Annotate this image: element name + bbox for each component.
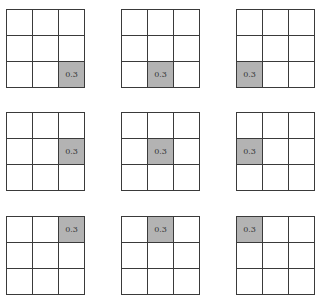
grid-cell: [263, 139, 289, 165]
grid-cell: [122, 269, 148, 295]
grid-cell: [59, 113, 85, 139]
grid-cell: [289, 269, 315, 295]
kernel-grid: 0.3: [121, 112, 200, 191]
grid-cell: [33, 113, 59, 139]
grid-cell: [59, 269, 85, 295]
grid-cell: [237, 243, 263, 269]
grid-cell: [148, 243, 174, 269]
kernel-grid: 0.3: [121, 216, 200, 295]
grid-cell: [174, 10, 200, 36]
grid-cell: [237, 36, 263, 62]
highlighted-cell: 0.3: [148, 217, 174, 243]
grid-cell: [289, 10, 315, 36]
grid-cell: [122, 217, 148, 243]
kernel-grid: 0.3: [6, 9, 85, 88]
kernel-grid: 0.3: [121, 9, 200, 88]
grid-cell: [122, 10, 148, 36]
highlighted-cell: 0.3: [59, 62, 85, 88]
grid-cell: [263, 36, 289, 62]
grid-cell: [174, 113, 200, 139]
grid-cell: [148, 165, 174, 191]
grid-cell: [174, 217, 200, 243]
grid-cell: [7, 36, 33, 62]
grid-cell: [7, 217, 33, 243]
highlighted-cell: 0.3: [148, 139, 174, 165]
grid-cell: [33, 36, 59, 62]
grid-cell: [148, 269, 174, 295]
grid-cell: [7, 62, 33, 88]
grid-cell: [174, 165, 200, 191]
grid-cell: [33, 10, 59, 36]
grid-cell: [122, 165, 148, 191]
grid-cell: [263, 165, 289, 191]
grid-cell: [174, 36, 200, 62]
grid-cell: [122, 139, 148, 165]
highlighted-cell: 0.3: [237, 139, 263, 165]
grid-cell: [33, 139, 59, 165]
grid-cell: [122, 243, 148, 269]
kernel-grid: 0.3: [236, 216, 315, 295]
grid-cell: [7, 165, 33, 191]
grid-cell: [174, 139, 200, 165]
highlighted-cell: 0.3: [237, 217, 263, 243]
highlighted-cell: 0.3: [59, 139, 85, 165]
grid-cell: [237, 10, 263, 36]
grid-cell: [289, 62, 315, 88]
grid-cell: [7, 243, 33, 269]
grid-cell: [237, 165, 263, 191]
grid-cell: [33, 269, 59, 295]
grid-cell: [174, 62, 200, 88]
kernel-grid: 0.3: [236, 112, 315, 191]
grid-cell: [59, 36, 85, 62]
kernel-grid: 0.3: [6, 112, 85, 191]
grid-cell: [263, 269, 289, 295]
grid-cell: [263, 243, 289, 269]
grid-cell: [237, 269, 263, 295]
grid-cell: [33, 62, 59, 88]
grid-cell: [263, 62, 289, 88]
kernel-grid: 0.3: [6, 216, 85, 295]
grid-cell: [148, 36, 174, 62]
highlighted-cell: 0.3: [59, 217, 85, 243]
grid-cell: [289, 36, 315, 62]
highlighted-cell: 0.3: [148, 62, 174, 88]
grid-cell: [289, 217, 315, 243]
grid-cell: [7, 269, 33, 295]
grid-cell: [174, 243, 200, 269]
kernel-grid: 0.3: [236, 9, 315, 88]
grid-cell: [59, 165, 85, 191]
grid-cell: [122, 113, 148, 139]
grid-cell: [7, 139, 33, 165]
grid-cell: [7, 10, 33, 36]
grid-cell: [289, 113, 315, 139]
grid-cell: [59, 10, 85, 36]
grid-cell: [289, 139, 315, 165]
grid-cell: [289, 243, 315, 269]
grid-cell: [148, 113, 174, 139]
grid-cell: [122, 62, 148, 88]
grid-cell: [33, 217, 59, 243]
grid-cell: [33, 165, 59, 191]
highlighted-cell: 0.3: [237, 62, 263, 88]
grid-cell: [59, 243, 85, 269]
grid-cell: [7, 113, 33, 139]
grid-cell: [237, 113, 263, 139]
grid-cell: [174, 269, 200, 295]
grid-cell: [263, 113, 289, 139]
grid-cell: [33, 243, 59, 269]
grid-cell: [263, 217, 289, 243]
grid-cell: [289, 165, 315, 191]
grid-cell: [122, 36, 148, 62]
grid-cell: [148, 10, 174, 36]
grid-cell: [263, 10, 289, 36]
